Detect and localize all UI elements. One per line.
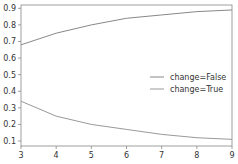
y-tick-label: 0.6 [3, 54, 16, 63]
line-chart: 0.10.20.30.40.50.60.70.80.9 3456789 chan… [0, 0, 238, 164]
legend-label: change=True [170, 85, 223, 94]
legend-label: change=False [170, 73, 226, 82]
x-tick-label: 5 [89, 151, 94, 160]
x-axis: 3456789 [18, 146, 234, 160]
y-tick-label: 0.7 [3, 37, 16, 46]
y-axis: 0.10.20.30.40.50.60.70.80.9 [3, 4, 21, 146]
x-tick-label: 7 [159, 151, 164, 160]
x-tick-label: 6 [124, 151, 129, 160]
y-tick-label: 0.3 [3, 104, 16, 113]
y-tick-label: 0.2 [3, 120, 16, 129]
x-tick-label: 9 [229, 151, 234, 160]
y-tick-label: 0.8 [3, 21, 16, 30]
x-tick-label: 4 [54, 151, 59, 160]
x-tick-label: 8 [194, 151, 199, 160]
y-tick-label: 0.5 [3, 71, 16, 80]
y-tick-label: 0.4 [3, 87, 16, 96]
y-tick-label: 0.1 [3, 137, 16, 146]
x-tick-label: 3 [18, 151, 23, 160]
y-tick-label: 0.9 [3, 4, 16, 13]
